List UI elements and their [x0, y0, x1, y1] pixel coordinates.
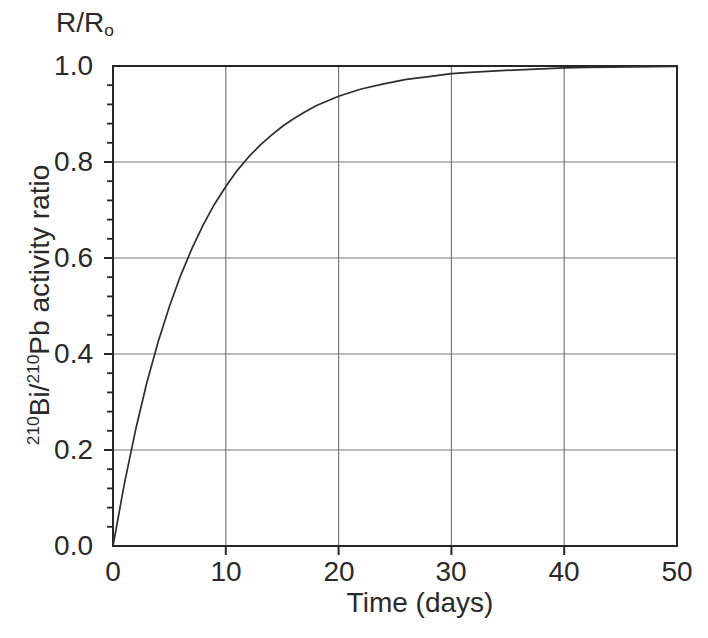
y-tick-label: 0.8	[29, 147, 93, 177]
x-tick-label: 10	[186, 557, 266, 587]
plot-border	[113, 66, 677, 546]
y-axis-title: 210Bi/210Pb activity ratio	[17, 125, 49, 485]
ratio-label: R/Ro	[56, 8, 114, 45]
x-tick-label: 40	[524, 557, 604, 587]
y-axis-title-text-1: Bi/	[24, 384, 55, 417]
y-tick-label: 0.4	[29, 339, 93, 369]
chart-plot-area	[0, 0, 708, 638]
ratio-label-subscript: o	[104, 20, 114, 40]
y-tick-label: 0.2	[29, 435, 93, 465]
x-tick-label: 20	[299, 557, 379, 587]
x-tick-label: 0	[73, 557, 153, 587]
x-tick-label: 50	[637, 557, 708, 587]
x-axis-title: Time (days)	[300, 588, 540, 618]
ingrowth-curve	[113, 67, 677, 547]
ingrowth-figure: R/Ro 210Bi/210Pb activity ratio 1.0 0.8 …	[0, 0, 708, 638]
ratio-label-base: R/R	[56, 7, 104, 38]
x-tick-label: 30	[411, 557, 491, 587]
y-tick-label: 1.0	[29, 51, 93, 81]
y-tick-label: 0.6	[29, 243, 93, 273]
